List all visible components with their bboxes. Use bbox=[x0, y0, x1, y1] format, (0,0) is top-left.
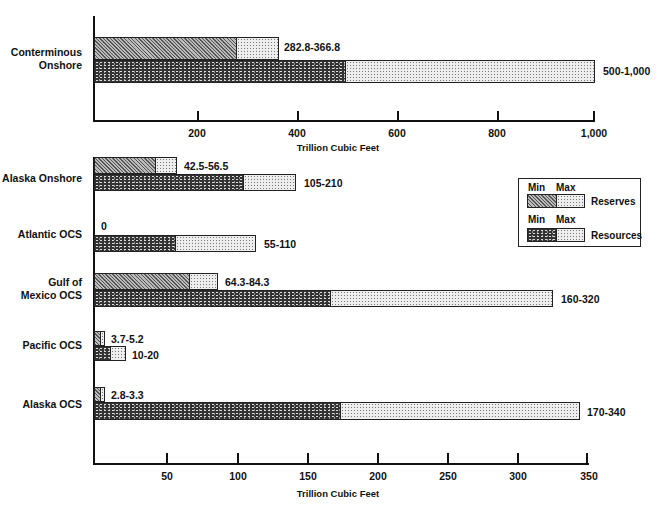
tick-mark bbox=[197, 111, 199, 121]
tick-mark bbox=[397, 111, 399, 121]
tick-mark bbox=[297, 111, 299, 121]
reserves-bar bbox=[94, 273, 218, 290]
category-label-line: Conterminous bbox=[11, 46, 82, 58]
reserves-bar bbox=[94, 157, 177, 174]
tick-mark bbox=[497, 111, 499, 121]
category-label-line: Gulf of bbox=[48, 276, 82, 288]
bottom-x-axis-title: Trillion Cubic Feet bbox=[297, 488, 379, 499]
top-x-axis-title: Trillion Cubic Feet bbox=[297, 142, 379, 153]
tick-label: 100 bbox=[229, 470, 247, 482]
tick-label: 350 bbox=[580, 470, 598, 482]
category-label: Alaska OCS bbox=[2, 398, 82, 411]
tick-label: 300 bbox=[509, 470, 527, 482]
resources-value: 500-1,000 bbox=[603, 65, 650, 77]
tick-label: 200 bbox=[188, 127, 206, 139]
tick-label: 600 bbox=[388, 127, 406, 139]
tick-mark bbox=[307, 453, 309, 463]
reserves-value: 0 bbox=[101, 220, 107, 232]
resources-bar bbox=[94, 174, 296, 191]
tick-label: 150 bbox=[299, 470, 317, 482]
tick-label: 400 bbox=[288, 127, 306, 139]
legend-min-label: Min bbox=[528, 214, 545, 225]
reserves-value: 2.8-3.3 bbox=[111, 389, 144, 401]
resources-value: 55-110 bbox=[264, 238, 296, 250]
legend-max-label: Max bbox=[556, 182, 575, 193]
resources-value: 160-320 bbox=[561, 293, 600, 305]
resources-bar bbox=[94, 402, 580, 420]
category-label: Atlantic OCS bbox=[2, 228, 82, 241]
tick-mark bbox=[166, 453, 168, 463]
tick-label: 50 bbox=[161, 470, 173, 482]
top-x-axis bbox=[93, 120, 595, 122]
reserves-value: 64.3-84.3 bbox=[225, 276, 269, 288]
legend-resources-label: Resources bbox=[591, 230, 642, 241]
reserves-value: 3.7-5.2 bbox=[111, 333, 144, 345]
resources-value: 105-210 bbox=[304, 177, 343, 189]
reserves-bar bbox=[94, 331, 105, 346]
legend-max-label: Max bbox=[556, 214, 575, 225]
tick-label: 200 bbox=[369, 470, 387, 482]
reserves-value: 42.5-56.5 bbox=[184, 160, 228, 172]
category-label-line: Mexico OCS bbox=[21, 289, 82, 301]
reserves-bar bbox=[94, 387, 105, 402]
legend-resources-swatch bbox=[527, 228, 585, 242]
category-label: Conterminous Onshore bbox=[2, 46, 82, 72]
tick-mark bbox=[447, 453, 449, 463]
legend-reserves-label: Reserves bbox=[591, 196, 635, 207]
resources-value: 170-340 bbox=[587, 406, 626, 418]
tick-label: 800 bbox=[488, 127, 506, 139]
reserves-bar bbox=[94, 37, 279, 60]
resources-bar bbox=[94, 235, 256, 252]
resources-value: 10-20 bbox=[132, 349, 159, 361]
reserves-value: 282.8-366.8 bbox=[284, 41, 340, 53]
category-label: Alaska Onshore bbox=[2, 172, 82, 185]
resources-bar bbox=[94, 60, 595, 83]
tick-mark bbox=[377, 453, 379, 463]
tick-mark bbox=[593, 111, 595, 121]
tick-mark bbox=[237, 453, 239, 463]
legend: Min Max Reserves Min Max Resources bbox=[518, 178, 641, 247]
resources-bar bbox=[94, 346, 126, 361]
legend-min-label: Min bbox=[528, 182, 545, 193]
category-label: Pacific OCS bbox=[2, 339, 82, 352]
tick-mark bbox=[517, 453, 519, 463]
tick-label: 250 bbox=[439, 470, 457, 482]
category-label-line: Onshore bbox=[39, 59, 82, 71]
bottom-x-axis bbox=[93, 463, 589, 465]
legend-reserves-swatch bbox=[527, 194, 585, 208]
category-label: Gulf of Mexico OCS bbox=[2, 276, 82, 302]
resources-bar bbox=[94, 290, 553, 307]
tick-mark bbox=[586, 453, 588, 463]
tick-label: 1,000 bbox=[581, 127, 607, 139]
